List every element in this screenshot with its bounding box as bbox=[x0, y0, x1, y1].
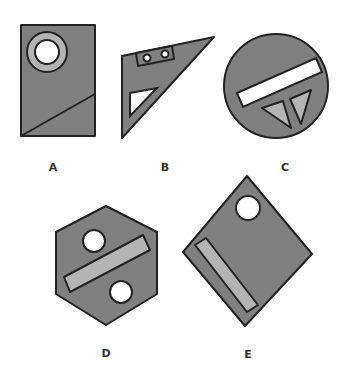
figure-b bbox=[122, 37, 214, 138]
label-b: B bbox=[161, 161, 169, 174]
small-hole bbox=[144, 55, 151, 62]
figure-e bbox=[183, 176, 312, 326]
figure-d bbox=[56, 206, 157, 325]
label-d: D bbox=[101, 347, 110, 360]
circular-hole bbox=[236, 196, 260, 220]
label-c: C bbox=[281, 161, 289, 174]
circular-hole bbox=[110, 281, 132, 303]
figure-canvas: A B C D E bbox=[0, 0, 351, 382]
ring-hole bbox=[35, 40, 59, 64]
figure-c bbox=[224, 34, 328, 138]
label-a: A bbox=[49, 161, 58, 174]
label-e: E bbox=[244, 348, 252, 361]
small-hole bbox=[162, 51, 169, 58]
figure-a bbox=[21, 25, 95, 136]
circular-hole bbox=[83, 230, 105, 252]
